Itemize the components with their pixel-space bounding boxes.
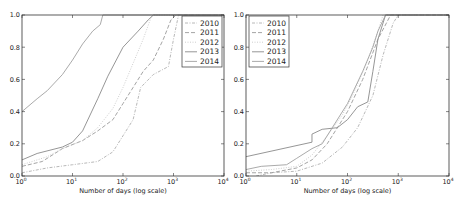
x-tick-label: 104 [217,177,228,186]
x-tick-label: 104 [442,177,453,186]
x-tick-label: 102 [341,177,352,186]
x-tick-label: 100 [15,177,26,186]
y-tick-label: 0.8 [10,44,20,52]
y-tick-label: 0.2 [234,140,244,148]
y-tick-label: 0.2 [10,140,20,148]
chart-panel-1: 0.00.20.40.60.81.0100101102103104Number … [10,11,229,195]
y-tick-label: 0.4 [10,108,20,116]
legend-label-2013: 2013 [200,47,219,56]
legend-label-2014: 2014 [267,57,286,66]
chart-canvas: 0.00.20.40.60.81.0100101102103104Number … [0,0,463,201]
legend-label-2012: 2012 [200,38,219,47]
x-axis-label: Number of days (log scale) [79,187,167,195]
legend-label-2011: 2011 [200,28,219,37]
x-tick-label: 100 [239,177,250,186]
y-tick-label: 1.0 [10,11,20,19]
x-tick-label: 101 [290,177,301,186]
chart-figure: 0.00.20.40.60.81.0100101102103104Number … [0,0,463,201]
x-tick-label: 103 [167,177,178,186]
chart-panel-2: 0.00.20.40.60.81.0100101102103104Number … [234,11,454,195]
x-axis-label: Number of days (log scale) [304,187,392,195]
legend-label-2011: 2011 [267,28,286,37]
legend-label-2010: 2010 [267,19,286,28]
legend-label-2012: 2012 [267,38,286,47]
legend-label-2010: 2010 [200,19,219,28]
y-tick-label: 0.4 [234,108,244,116]
legend: 20102011201220132014 [249,16,289,67]
y-tick-label: 1.0 [234,11,244,19]
x-tick-label: 101 [66,177,77,186]
y-tick-label: 0.8 [234,44,244,52]
x-tick-label: 103 [392,177,403,186]
x-tick-label: 102 [116,177,127,186]
legend-label-2013: 2013 [267,47,286,56]
legend: 20102011201220132014 [182,16,222,67]
y-tick-label: 0.6 [234,76,244,84]
legend-label-2014: 2014 [200,57,219,66]
y-tick-label: 0.6 [10,76,20,84]
